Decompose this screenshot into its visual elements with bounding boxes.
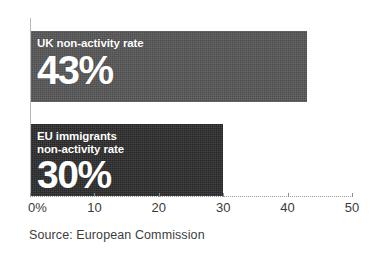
bar-label-line-1: EU immigrants bbox=[37, 130, 223, 143]
value-axis-tick-0pct bbox=[30, 193, 31, 197]
value-axis-tick-30 bbox=[223, 193, 224, 197]
value-axis-tick-label: 10 bbox=[87, 200, 101, 215]
value-axis-tick-50 bbox=[352, 193, 353, 197]
value-axis-tick-label: 30 bbox=[216, 200, 230, 215]
value-axis-tick-label: 20 bbox=[152, 200, 166, 215]
value-axis-tick-label: 50 bbox=[345, 200, 359, 215]
value-axis-line bbox=[30, 196, 352, 197]
plot-area: UK non-activity rate 43% EU immigrants n… bbox=[0, 0, 380, 200]
bar-eu-immigrants-non-activity-rate[interactable]: EU immigrants non-activity rate 30% bbox=[31, 124, 223, 196]
bar-value-label: 43% bbox=[37, 51, 307, 89]
bar-chart-figure: UK non-activity rate 43% EU immigrants n… bbox=[0, 0, 380, 256]
value-axis-tick-20 bbox=[159, 193, 160, 197]
source-caption: Source: European Commission bbox=[29, 228, 205, 242]
value-axis-tick-label: 40 bbox=[280, 200, 294, 215]
value-axis: 0%1020304050 bbox=[0, 196, 380, 226]
bar-uk-non-activity-rate[interactable]: UK non-activity rate 43% bbox=[31, 31, 307, 102]
value-axis-tick-label: 0% bbox=[28, 200, 47, 215]
value-axis-tick-40 bbox=[288, 193, 289, 197]
bar-value-label: 30% bbox=[37, 156, 223, 193]
value-axis-tick-10 bbox=[94, 193, 95, 197]
